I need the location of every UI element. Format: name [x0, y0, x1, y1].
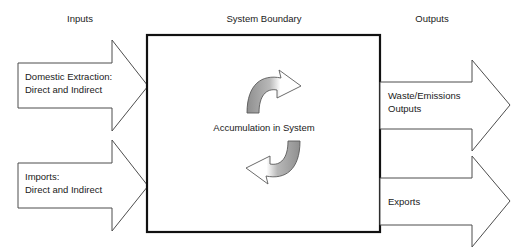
output-arrow-waste-emissions-line1: Waste/Emissions	[388, 90, 461, 101]
input-arrow-domestic-extraction-line1: Domestic Extraction:	[25, 71, 112, 82]
header-outputs: Outputs	[415, 13, 449, 24]
system-boundary-box	[147, 35, 380, 232]
header-inputs: Inputs	[67, 13, 93, 24]
output-arrow-exports-line1: Exports	[388, 196, 420, 207]
input-arrow-domestic-extraction-line2: Direct and Indirect	[25, 84, 102, 95]
diagram-canvas: Inputs System Boundary Outputs Domestic …	[0, 0, 516, 248]
accumulation-label: Accumulation in System	[213, 122, 314, 133]
input-arrow-imports-line1: Imports:	[25, 171, 59, 182]
output-arrow-waste-emissions-line2: Outputs	[388, 103, 422, 114]
input-arrow-imports-line2: Direct and Indirect	[25, 184, 102, 195]
system-boundary-diagram: Inputs System Boundary Outputs Domestic …	[0, 0, 516, 248]
header-system-boundary: System Boundary	[227, 13, 302, 24]
